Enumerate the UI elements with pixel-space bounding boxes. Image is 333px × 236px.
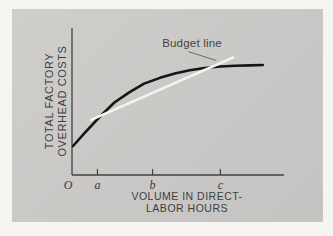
x-axis-title: VOLUME IN DIRECT- LABOR HOURS — [87, 191, 287, 214]
budget-line-label: Budget line — [157, 37, 227, 49]
budget-line — [91, 58, 233, 120]
x-axis-title-line2: LABOR HOURS — [87, 203, 287, 215]
budget-line-leader — [189, 52, 217, 61]
y-axis-title-line2: OVERHEAD COSTS — [56, 21, 69, 181]
scanned-page: { "figure": { "panel_bg": "#c9c8c6", "pa… — [0, 0, 333, 236]
tick-label-a: a — [94, 178, 100, 192]
x-axis-title-line1: VOLUME IN DIRECT- — [87, 191, 287, 203]
y-axis-title: TOTAL FACTORY OVERHEAD COSTS — [43, 21, 69, 181]
y-axis-title-line1: TOTAL FACTORY — [43, 21, 56, 181]
total-overhead-cost-curve — [73, 65, 263, 146]
figure-panel: Oabc TOTAL FACTORY OVERHEAD COSTS Budget… — [12, 9, 323, 222]
